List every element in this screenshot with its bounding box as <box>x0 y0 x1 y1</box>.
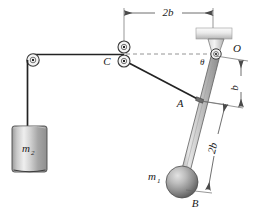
label-m2-base: m <box>22 142 30 154</box>
label-point-O: O <box>233 42 241 54</box>
cable-segment-A-to-C <box>127 62 200 100</box>
figure-canvas: 2b <box>0 0 259 212</box>
dim-b-ext-top <box>216 56 248 61</box>
pendulum-rod <box>179 52 220 186</box>
dim-top-label: 2b <box>163 6 175 18</box>
label-angle-theta: θ <box>200 57 205 67</box>
label-mass-m1: m 1 <box>148 170 161 185</box>
pivot-O <box>211 49 221 59</box>
rod-highlight <box>182 54 215 184</box>
label-m1-base: m <box>148 170 156 182</box>
label-m1-sub: 1 <box>157 177 161 185</box>
label-point-B: B <box>192 197 199 209</box>
label-point-C: C <box>103 55 111 67</box>
rod-body <box>179 52 220 186</box>
dim-2b-line-upper <box>218 104 226 134</box>
dim-b-label: b <box>228 85 240 91</box>
dim-2b-label: 2b <box>205 141 219 155</box>
pendulum-bob-m1 <box>166 166 198 198</box>
mechanics-diagram: 2b <box>0 0 259 212</box>
label-point-A: A <box>176 97 184 109</box>
label-m2-sub: 2 <box>31 149 35 157</box>
dim-2b-line-lower <box>208 156 214 190</box>
ceiling-block <box>196 28 232 39</box>
pulley-C-lower-dot <box>123 60 125 62</box>
pulley-left-dot <box>32 59 34 61</box>
pivot-center-dot <box>215 53 217 55</box>
pulley-C-upper-dot <box>123 46 125 48</box>
pulley-left <box>27 54 39 66</box>
bob-sphere <box>166 166 198 198</box>
